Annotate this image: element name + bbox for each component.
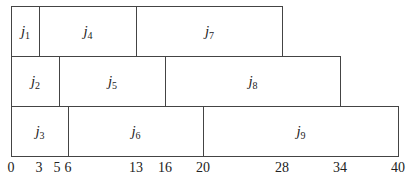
job-label: j6	[131, 123, 140, 141]
job-j9: j9	[203, 106, 399, 157]
job-j2: j2	[11, 56, 60, 107]
job-j7: j7	[136, 6, 283, 57]
tick-16: 16	[158, 160, 172, 176]
job-j5: j5	[59, 56, 166, 107]
job-j3: j3	[11, 106, 69, 157]
tick-3: 3	[36, 160, 43, 176]
tick-20: 20	[196, 160, 210, 176]
job-j1: j1	[11, 6, 40, 57]
job-j6: j6	[68, 106, 204, 157]
tick-28: 28	[275, 160, 289, 176]
tick-0: 0	[8, 160, 15, 176]
job-label: j3	[35, 123, 44, 141]
tick-40: 40	[391, 160, 405, 176]
job-label: j8	[248, 73, 257, 91]
job-label: j2	[31, 73, 40, 91]
job-j4: j4	[39, 6, 137, 57]
tick-5: 5	[54, 160, 61, 176]
job-label: j1	[21, 23, 30, 41]
tick-13: 13	[129, 160, 143, 176]
job-label: j5	[108, 73, 117, 91]
job-label: j7	[205, 23, 214, 41]
job-label: j9	[296, 123, 305, 141]
job-j8: j8	[165, 56, 341, 107]
tick-34: 34	[333, 160, 347, 176]
job-label: j4	[83, 23, 92, 41]
tick-6: 6	[65, 160, 72, 176]
